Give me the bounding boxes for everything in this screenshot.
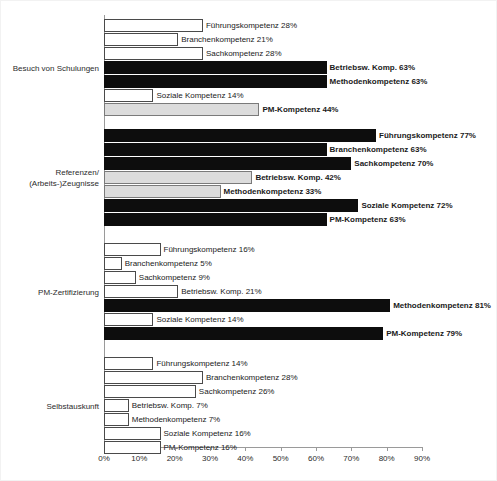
bar bbox=[104, 371, 203, 384]
category-label: Besuch von Schulungen bbox=[1, 63, 99, 74]
bar bbox=[104, 399, 129, 412]
bar-value-label: Methodenkompetenz 63% bbox=[327, 76, 428, 87]
bar-value-label: Soziale Kompetenz 14% bbox=[153, 314, 243, 325]
x-tick bbox=[351, 447, 352, 451]
x-tick bbox=[245, 447, 246, 451]
category-label: Selbstauskunft bbox=[1, 401, 99, 412]
bar-value-label: Sachkompetenz 26% bbox=[196, 386, 275, 397]
bar-value-label: PM-Kompetenz 16% bbox=[161, 442, 237, 453]
category-label: PM-Zertifizierung bbox=[1, 287, 99, 298]
x-tick-label: 40% bbox=[237, 454, 253, 463]
bar-value-label: Branchenkompetenz 5% bbox=[122, 258, 212, 269]
bar bbox=[104, 89, 153, 102]
x-tick-label: 70% bbox=[343, 454, 359, 463]
bar bbox=[104, 213, 327, 226]
bar bbox=[104, 185, 221, 198]
bar bbox=[104, 19, 203, 32]
bar-value-label: Führungskompetenz 14% bbox=[153, 358, 247, 369]
bar bbox=[104, 33, 178, 46]
bar bbox=[104, 257, 122, 270]
bar-value-label: Betriebsw. Komp. 21% bbox=[178, 286, 261, 297]
bar bbox=[104, 427, 161, 440]
bar-value-label: Methodenkompetenz 33% bbox=[221, 186, 322, 197]
bar-value-label: Branchenkompetenz 28% bbox=[203, 372, 298, 383]
x-tick-label: 30% bbox=[202, 454, 218, 463]
x-tick-label: 10% bbox=[131, 454, 147, 463]
bar bbox=[104, 171, 252, 184]
bar bbox=[104, 313, 153, 326]
bar-value-label: Soziale Kompetenz 16% bbox=[161, 428, 251, 439]
bar-value-label: Soziale Kompetenz 14% bbox=[153, 90, 243, 101]
bar bbox=[104, 143, 327, 156]
bar bbox=[104, 285, 178, 298]
bar bbox=[104, 157, 351, 170]
category-label-line: Selbstauskunft bbox=[1, 401, 99, 412]
bar bbox=[104, 327, 383, 340]
category-label-line: Referenzen/ bbox=[1, 167, 99, 178]
bar bbox=[104, 299, 390, 312]
category-label: Referenzen/(Arbeits-)Zeugnisse bbox=[1, 167, 99, 189]
category-label-line: (Arbeits-)Zeugnisse bbox=[1, 178, 99, 189]
x-tick-label: 80% bbox=[379, 454, 395, 463]
bar-value-label: Führungskompetenz 28% bbox=[203, 20, 297, 31]
bar bbox=[104, 271, 136, 284]
bar-value-label: Betriebsw. Komp. 42% bbox=[252, 172, 341, 183]
category-label-line: PM-Zertifizierung bbox=[1, 287, 99, 298]
x-tick bbox=[422, 447, 423, 451]
bar bbox=[104, 199, 358, 212]
bar-value-label: Branchenkompetenz 63% bbox=[327, 144, 427, 155]
bar-value-label: PM-Kompetenz 44% bbox=[259, 104, 338, 115]
bar-value-label: Sachkompetenz 28% bbox=[203, 48, 282, 59]
x-tick-label: 50% bbox=[273, 454, 289, 463]
bar bbox=[104, 385, 196, 398]
x-tick-label: 90% bbox=[414, 454, 430, 463]
bar-value-label: PM-Kompetenz 63% bbox=[327, 214, 406, 225]
x-tick bbox=[316, 447, 317, 451]
bar-value-label: Methodenkompetenz 81% bbox=[390, 300, 491, 311]
bar-value-label: Sachkompetenz 9% bbox=[136, 272, 210, 283]
bar-chart: 0%10%20%30%40%50%60%70%80%90% Besuch von… bbox=[0, 0, 497, 481]
bar bbox=[104, 413, 129, 426]
x-tick-label: 20% bbox=[167, 454, 183, 463]
x-tick bbox=[281, 447, 282, 451]
bar-value-label: Betriebsw. Komp. 63% bbox=[327, 62, 416, 73]
bar bbox=[104, 357, 153, 370]
bar bbox=[104, 47, 203, 60]
x-tick-label: 0% bbox=[98, 454, 110, 463]
bar-value-label: Methodenkompetenz 7% bbox=[129, 414, 221, 425]
bar-value-label: Führungskompetenz 16% bbox=[161, 244, 255, 255]
bar-value-label: Sachkompetenz 70% bbox=[351, 158, 433, 169]
bar-value-label: Soziale Kompetenz 72% bbox=[358, 200, 452, 211]
bar-value-label: Führungskompetenz 77% bbox=[376, 130, 476, 141]
bar bbox=[104, 61, 327, 74]
bar-value-label: Branchenkompetenz 21% bbox=[178, 34, 273, 45]
category-label-line: Besuch von Schulungen bbox=[1, 63, 99, 74]
bar bbox=[104, 129, 376, 142]
bar-value-label: PM-Kompetenz 79% bbox=[383, 328, 462, 339]
bar bbox=[104, 103, 259, 116]
bar bbox=[104, 75, 327, 88]
x-tick bbox=[387, 447, 388, 451]
bar bbox=[104, 243, 161, 256]
bar bbox=[104, 441, 161, 454]
x-tick-label: 60% bbox=[308, 454, 324, 463]
bar-value-label: Betriebsw. Komp. 7% bbox=[129, 400, 208, 411]
